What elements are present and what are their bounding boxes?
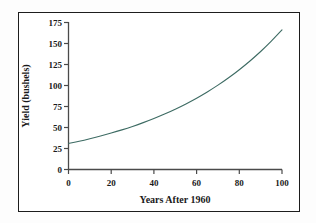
chart-figure: 0255075100125150175 020406080100 Years A… [0,0,316,223]
y-tick-label: 50 [36,123,62,132]
y-tick-label: 25 [36,144,62,153]
y-tick-label: 100 [36,81,62,90]
y-tick-label: 75 [36,102,62,111]
y-tick-label: 125 [36,60,62,69]
x-tick-label: 20 [107,179,116,188]
x-tick-label: 80 [235,179,244,188]
y-axis-title: Yield (bushels) [20,64,31,127]
x-tick-label: 40 [149,179,158,188]
y-tick-label: 0 [36,165,62,174]
x-tick-label: 0 [66,179,71,188]
x-tick-label: 60 [192,179,201,188]
y-tick-label: 150 [36,39,62,48]
y-tick-label: 175 [36,18,62,27]
x-axis-title: Years After 1960 [140,194,211,205]
x-tick-label: 100 [275,179,289,188]
